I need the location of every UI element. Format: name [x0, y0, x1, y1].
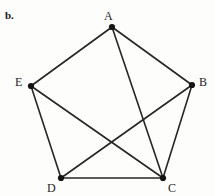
graph-edge-ab: [112, 27, 192, 85]
vertex-label-a: A: [104, 10, 113, 22]
graph-vertex-b: [189, 82, 195, 88]
graph-vertex-c: [160, 175, 166, 181]
vertex-label-c: C: [168, 182, 176, 194]
vertex-label-d: D: [47, 182, 56, 194]
graph-drawing: [0, 0, 214, 196]
graph-edge-bd: [61, 85, 192, 178]
graph-vertex-d: [58, 175, 64, 181]
edges-group: [31, 27, 192, 178]
vertex-label-e: E: [15, 76, 22, 88]
graph-edge-ac: [112, 27, 163, 178]
figure-container: b. ABCDE: [0, 0, 214, 196]
graph-vertex-e: [28, 83, 34, 89]
graph-vertex-a: [109, 24, 115, 30]
graph-edge-ec: [31, 86, 163, 178]
graph-edge-ed: [31, 86, 61, 178]
vertex-label-b: B: [199, 76, 207, 88]
graph-edge-ae: [31, 27, 112, 86]
graph-edge-bc: [163, 85, 192, 178]
